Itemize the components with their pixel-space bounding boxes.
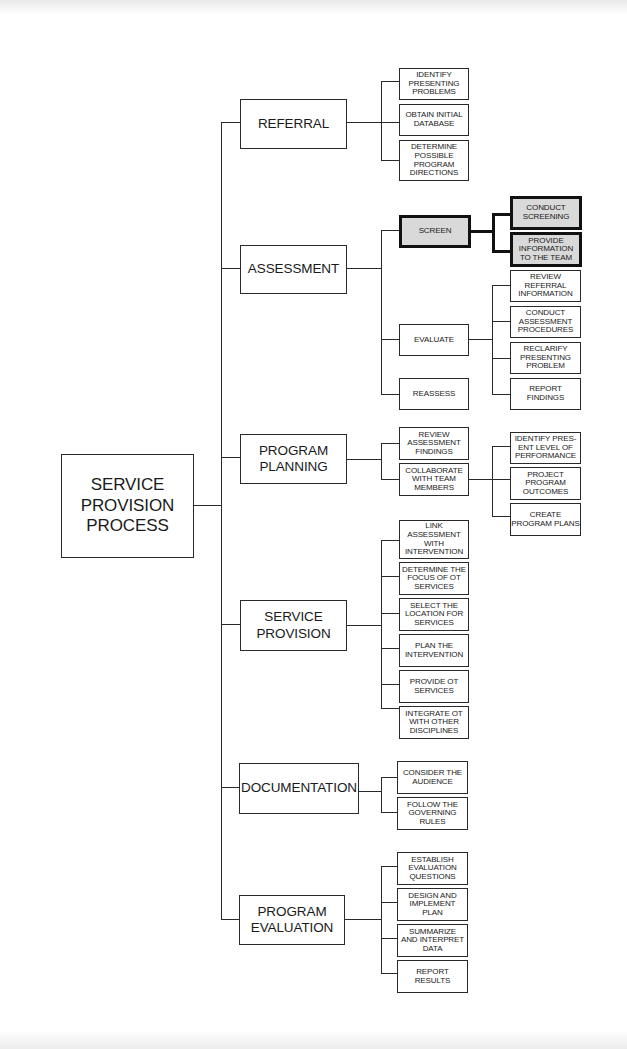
step-design-implement-plan: DESIGN AND IMPLEMENT PLAN xyxy=(397,888,468,921)
connector xyxy=(492,358,510,359)
step-consider-audience: CONSIDER THE AUDIENCE xyxy=(397,761,468,794)
connector xyxy=(381,230,382,394)
substep-project-program-outcomes: PROJECT PROGRAM OUTCOMES xyxy=(510,467,581,500)
step-review-assessment-findings: REVIEW ASSESSMENT FINDINGS xyxy=(399,427,469,460)
connector xyxy=(381,777,382,813)
connector xyxy=(492,213,510,216)
step-collaborate-with-team: COLLABORATE WITH TEAM MEMBERS xyxy=(399,463,469,496)
connector xyxy=(346,122,382,123)
phase-service-provision: SERVICE PROVISION xyxy=(240,600,347,651)
step-determine-program-directions: DETERMINE POSSIBLE PROGRAM DIRECTIONS xyxy=(399,140,469,181)
phase-program-evaluation: PROGRAM EVALUATION xyxy=(239,895,345,945)
connector xyxy=(221,268,240,269)
connector xyxy=(469,479,511,480)
connector xyxy=(492,285,493,395)
connector xyxy=(221,624,240,625)
step-identify-presenting-problems: IDENTIFY PRESENTING PROBLEMS xyxy=(399,68,469,100)
phase-referral: REFERRAL xyxy=(240,99,347,149)
substep-report-findings: REPORT FINDINGS xyxy=(510,378,581,410)
connector xyxy=(381,443,399,444)
connector xyxy=(492,213,495,252)
phase-program-planning: PROGRAM PLANNING xyxy=(240,434,347,484)
connector xyxy=(381,540,399,541)
connector xyxy=(381,479,399,480)
connector xyxy=(492,321,510,322)
step-reassess: REASSESS xyxy=(399,378,469,410)
step-screen: SCREEN xyxy=(399,215,471,248)
connector xyxy=(381,122,399,123)
step-evaluate: EVALUATE xyxy=(399,324,469,356)
connector xyxy=(346,459,382,460)
substep-create-program-plans: CREATE PROGRAM PLANS xyxy=(510,503,581,536)
step-obtain-initial-database: OBTAIN INITIAL DATABASE xyxy=(399,104,469,136)
connector xyxy=(381,81,382,161)
connector xyxy=(381,648,399,649)
connector xyxy=(381,613,399,614)
connector xyxy=(492,394,510,395)
connector xyxy=(492,516,510,517)
step-select-location: SELECT THE LOCATION FOR SERVICES xyxy=(399,598,469,631)
connector xyxy=(358,791,382,792)
connector xyxy=(346,625,382,626)
connector xyxy=(381,394,399,395)
trunk-line xyxy=(221,122,222,920)
connector xyxy=(381,339,399,340)
substep-conduct-assessment-procedures: CONDUCT ASSESSMENT PROCEDURES xyxy=(510,306,581,338)
substep-review-referral-information: REVIEW REFERRAL INFORMATION xyxy=(510,270,581,302)
connector xyxy=(345,919,382,920)
step-establish-evaluation-questions: ESTABLISH EVALUATION QUESTIONS xyxy=(397,852,468,885)
connector xyxy=(381,160,399,161)
connector xyxy=(381,443,382,480)
connector xyxy=(193,505,222,506)
phase-documentation: DOCUMENTATION xyxy=(239,763,359,814)
step-report-results: REPORT RESULTS xyxy=(397,960,468,993)
connector xyxy=(469,339,493,340)
step-integrate-ot: INTEGRATE OT WITH OTHER DISCIPLINES xyxy=(399,706,469,739)
phase-assessment: ASSESSMENT xyxy=(240,245,347,294)
step-summarize-interpret-data: SUMMARIZE AND INTERPRET DATA xyxy=(397,924,468,957)
step-provide-ot-services: PROVIDE OT SERVICES xyxy=(399,670,469,703)
substep-conduct-screening: CONDUCT SCREENING xyxy=(510,196,582,230)
connector xyxy=(492,446,510,447)
substep-provide-information: PROVIDE INFORMATION TO THE TEAM xyxy=(510,232,582,267)
root-node: SERVICE PROVISION PROCESS xyxy=(61,454,194,558)
step-plan-intervention: PLAN THE INTERVENTION xyxy=(399,634,469,667)
scan-band-top xyxy=(0,0,627,14)
substep-identify-present-level: IDENTIFY PRES- ENT LEVEL OF PERFORMANCE xyxy=(510,432,581,464)
connector xyxy=(492,446,493,517)
connector xyxy=(381,708,399,709)
connector xyxy=(381,684,399,685)
connector xyxy=(492,285,510,286)
connector xyxy=(381,866,382,974)
connector xyxy=(492,250,510,253)
connector xyxy=(381,576,399,577)
connector xyxy=(346,268,382,269)
connector xyxy=(221,457,240,458)
step-link-assessment-intervention: LINK ASSESSMENT WITH INTERVENTION xyxy=(399,520,469,559)
connector xyxy=(221,787,240,788)
connector xyxy=(221,122,240,123)
connector xyxy=(221,919,240,920)
step-follow-governing-rules: FOLLOW THE GOVERNING RULES xyxy=(397,797,468,830)
scan-band-bottom xyxy=(0,1030,627,1049)
connector xyxy=(381,81,399,82)
substep-reclarify-presenting-problem: RECLARIFY PRESENTING PROBLEM xyxy=(510,342,581,374)
step-determine-focus: DETERMINE THE FOCUS OF OT SERVICES xyxy=(399,562,469,595)
connector xyxy=(381,230,399,231)
